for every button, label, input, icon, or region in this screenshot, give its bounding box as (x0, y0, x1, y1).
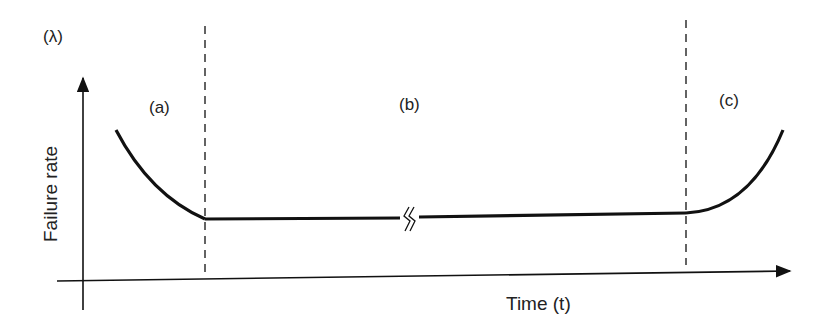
failure-rate-curve-early (116, 130, 205, 219)
bathtub-curve-diagram: (λ) Failure rate (a) (b) (c) Time (t) (0, 0, 822, 333)
region-b-label: (b) (399, 95, 420, 115)
failure-rate-curve-flat-left (205, 218, 400, 219)
lambda-label: (λ) (43, 27, 63, 47)
failure-rate-curve-flat-right (419, 213, 686, 217)
x-axis (57, 271, 790, 281)
region-a-label: (a) (149, 98, 170, 118)
failure-rate-curve-wearout (686, 130, 783, 213)
region-c-label: (c) (719, 91, 739, 111)
diagram-canvas (0, 0, 822, 333)
y-axis-label: Failure rate (40, 146, 62, 242)
x-axis-label: Time (t) (506, 293, 571, 315)
axis-break-icon (404, 207, 415, 231)
